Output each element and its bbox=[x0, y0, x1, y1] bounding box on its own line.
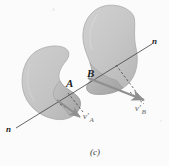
scan-speck bbox=[160, 120, 162, 122]
figure-canvas bbox=[0, 0, 169, 166]
impact-figure: A B n n v′A v′B (c) bbox=[0, 0, 169, 166]
velocity-b-subscript: B bbox=[142, 108, 147, 116]
label-velocity-a: v′A bbox=[83, 112, 94, 124]
figure-caption: (c) bbox=[90, 148, 100, 157]
velocity-a-subscript: A bbox=[90, 116, 95, 124]
scan-speck bbox=[52, 8, 55, 11]
label-normal-left: n bbox=[6, 125, 11, 134]
label-body-b: B bbox=[87, 68, 94, 79]
label-normal-right: n bbox=[152, 37, 157, 46]
label-velocity-b: v′B bbox=[135, 104, 146, 116]
body-b-shape bbox=[83, 5, 137, 94]
label-body-a: A bbox=[66, 78, 73, 89]
